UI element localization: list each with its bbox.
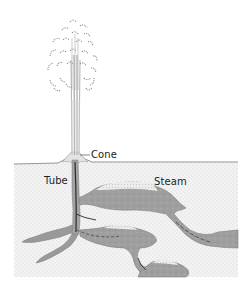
geyser-column <box>71 55 80 155</box>
tube-label: Tube <box>44 175 68 186</box>
steam-label: Steam <box>154 176 187 187</box>
geyser-diagram <box>0 0 249 289</box>
geyser-spray <box>48 20 97 91</box>
cone-label: Cone <box>91 149 117 160</box>
